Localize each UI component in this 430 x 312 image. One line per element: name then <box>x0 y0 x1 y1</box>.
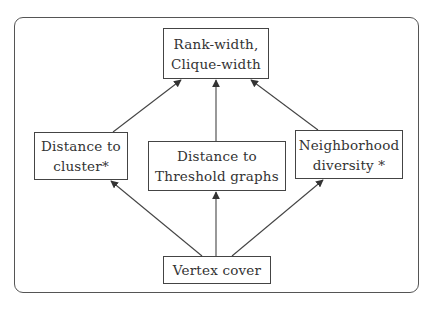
node-label-line: Rank-width, <box>174 34 259 54</box>
edge-bottom-to-right <box>232 180 323 256</box>
edge-right-to-top <box>251 80 318 130</box>
node-label-line: Clique-width <box>171 54 261 74</box>
edge-left-to-top <box>113 80 181 132</box>
node-label-line: Distance to <box>41 136 121 156</box>
node-rank-width-clique-width: Rank-width, Clique-width <box>163 28 269 79</box>
node-label-line: Threshold graphs <box>155 166 279 186</box>
node-distance-to-cluster: Distance to cluster* <box>34 132 128 180</box>
node-label-line: Vertex cover <box>173 260 261 280</box>
node-vertex-cover: Vertex cover <box>163 256 271 284</box>
node-distance-to-threshold-graphs: Distance to Threshold graphs <box>148 141 286 191</box>
edge-bottom-to-left <box>111 181 202 256</box>
node-label-line: Neighborhood <box>299 135 400 155</box>
node-label-line: diversity * <box>313 155 386 175</box>
node-neighborhood-diversity: Neighborhood diversity * <box>295 130 403 179</box>
node-label-line: Distance to <box>177 146 257 166</box>
node-label-line: cluster* <box>53 156 109 176</box>
